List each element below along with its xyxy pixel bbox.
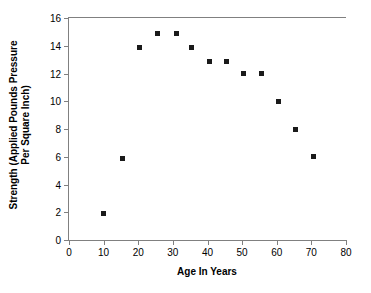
y-axis-tick-mark (64, 74, 69, 75)
x-axis-tick-mark (242, 240, 243, 245)
y-axis-tick-label: 8 (55, 124, 61, 135)
data-point (174, 31, 179, 36)
y-axis-tick-mark (64, 185, 69, 186)
data-point (224, 59, 229, 64)
x-axis-tick-label: 60 (271, 247, 282, 258)
x-axis-title: Age In Years (68, 266, 346, 277)
y-axis-tick-mark (64, 129, 69, 130)
x-axis-tick-label: 10 (98, 247, 109, 258)
x-axis-tick-label: 80 (340, 247, 351, 258)
y-axis-tick-label: 16 (50, 13, 61, 24)
y-axis-tick-label: 10 (50, 96, 61, 107)
y-axis-tick-mark (64, 18, 69, 19)
y-axis-tick-label: 4 (55, 179, 61, 190)
data-point (276, 99, 281, 104)
y-axis-title-line-2: Per Square Inch) (20, 41, 32, 210)
plot-inner (69, 18, 346, 240)
y-axis-tick-label: 0 (55, 235, 61, 246)
y-axis-tick-mark (64, 101, 69, 102)
data-point (241, 71, 246, 76)
y-axis-title-line-1: Strength (Applied Pounds Pressure (8, 41, 20, 210)
x-axis-tick-mark (277, 240, 278, 245)
y-axis-tick-label: 6 (55, 151, 61, 162)
data-point (101, 211, 106, 216)
data-point (155, 31, 160, 36)
data-point (293, 127, 298, 132)
data-point (137, 45, 142, 50)
data-point (120, 156, 125, 161)
x-axis-tick-label: 50 (237, 247, 248, 258)
plot-area: 024681012141601020304050607080 (68, 17, 346, 241)
x-axis-tick-mark (173, 240, 174, 245)
data-point (259, 71, 264, 76)
x-axis-tick-label: 40 (202, 247, 213, 258)
y-axis-title: Strength (Applied Pounds Pressure Per Sq… (0, 0, 40, 250)
x-axis-tick-label: 30 (167, 247, 178, 258)
data-point (311, 154, 316, 159)
x-axis-tick-label: 20 (133, 247, 144, 258)
x-axis-tick-mark (138, 240, 139, 245)
x-axis-tick-mark (208, 240, 209, 245)
x-axis-tick-label: 0 (66, 247, 72, 258)
data-point (207, 59, 212, 64)
data-point (189, 45, 194, 50)
x-axis-tick-label: 70 (306, 247, 317, 258)
y-axis-tick-mark (64, 46, 69, 47)
x-axis-tick-mark (311, 240, 312, 245)
x-axis-tick-mark (104, 240, 105, 245)
y-axis-tick-label: 12 (50, 68, 61, 79)
scatter-chart-figure: Strength (Applied Pounds Pressure Per Sq… (0, 0, 371, 293)
y-axis-tick-mark (64, 212, 69, 213)
x-axis-tick-mark (69, 240, 70, 245)
y-axis-tick-mark (64, 157, 69, 158)
x-axis-tick-mark (346, 240, 347, 245)
y-axis-tick-label: 14 (50, 40, 61, 51)
y-axis-tick-label: 2 (55, 207, 61, 218)
